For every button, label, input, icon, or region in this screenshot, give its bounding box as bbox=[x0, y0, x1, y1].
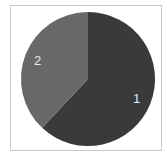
pie-chart: 1 2 bbox=[0, 0, 167, 161]
slice-label-2: 2 bbox=[34, 53, 41, 68]
slice-label-1: 1 bbox=[133, 91, 140, 106]
